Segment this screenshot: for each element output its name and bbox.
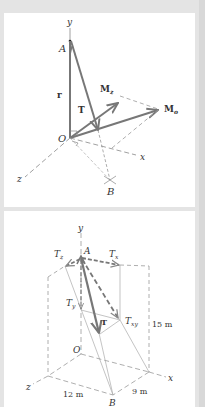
- box-top-left: [48, 266, 65, 277]
- diagram-canvas: y A r T Mz Mo O x z B: [0, 0, 205, 407]
- origin-label-bottom: O: [73, 345, 81, 355]
- y-axis-label: y: [66, 17, 73, 27]
- point-B-label: B: [106, 186, 114, 197]
- Tx-label: Tx: [109, 249, 119, 260]
- z-axis-bottom: [48, 354, 81, 376]
- Txy-label: Txy: [125, 316, 138, 328]
- point-A-label: A: [58, 43, 66, 54]
- x-axis-label: x: [140, 152, 145, 162]
- Mz-label: Mz: [100, 84, 114, 95]
- tension-vector-T-bottom: [81, 258, 99, 333]
- y-axis-label-bottom: y: [77, 223, 84, 233]
- T-label: T: [78, 105, 85, 115]
- r-label: r: [57, 90, 62, 100]
- tx-vector: [82, 258, 119, 265]
- point-B-mark: [104, 176, 116, 184]
- dashed-O-B: [70, 138, 110, 180]
- tz-to-B-line: [65, 266, 113, 395]
- txy-to-corner: [120, 320, 149, 372]
- dashed-mz-mo: [120, 96, 158, 109]
- figure-top: y A r T Mz Mo O x z B: [16, 17, 178, 197]
- Mo-label: Mo: [164, 104, 178, 115]
- figure-bottom: y A Tz Tx Ty T Txy 15 m O x z 12 m 9 m B: [25, 223, 173, 407]
- z-length-dimension: 12 m: [63, 390, 84, 399]
- Tz-label: Tz: [54, 249, 64, 260]
- x-axis-bottom: [81, 354, 149, 372]
- x-axis-label-bottom: x: [168, 373, 173, 383]
- z-axis-label-bottom: z: [25, 382, 31, 392]
- box-top-right: [120, 265, 149, 266]
- x-axis-ext: [149, 372, 166, 377]
- point-A-label-bottom: A: [83, 246, 91, 256]
- Ty-label: Ty: [66, 298, 76, 310]
- z-axis-label: z: [16, 174, 22, 184]
- height-dimension: 15 m: [152, 320, 173, 329]
- dashed-x-mo: [112, 110, 158, 148]
- origin-label: O: [58, 133, 66, 144]
- point-B-label-bottom: B: [108, 398, 116, 407]
- tension-line-extension: [98, 130, 110, 180]
- x-length-dimension: 9 m: [132, 387, 148, 396]
- T-label-bottom: T: [101, 317, 107, 327]
- z-axis-ext: [33, 376, 48, 384]
- tension-vector-T: [71, 41, 98, 130]
